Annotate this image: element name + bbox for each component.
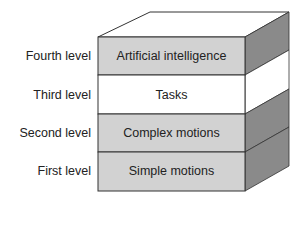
- face-label-third: Tasks: [98, 88, 245, 102]
- level-label-fourth: Fourth level: [26, 49, 91, 63]
- face-label-fourth: Artificial intelligence: [98, 49, 245, 63]
- level-label-second: Second level: [19, 126, 91, 140]
- level-label-first: First level: [38, 164, 91, 178]
- face-label-first: Simple motions: [98, 164, 245, 178]
- face-label-second: Complex motions: [98, 126, 245, 140]
- level-label-third: Third level: [33, 88, 91, 102]
